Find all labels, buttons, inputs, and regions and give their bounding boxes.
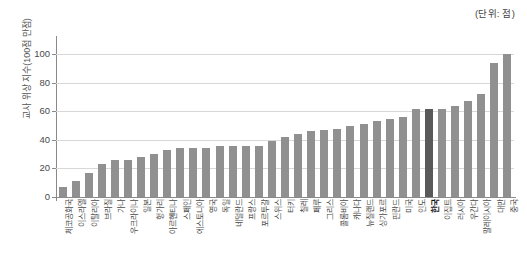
- x-axis-label: 중국: [511, 199, 519, 265]
- teacher-status-index-bar-chart: (단위: 점) 교사 위상 지수(100점 만점) 020406080100 체…: [0, 0, 527, 268]
- bar: [85, 173, 93, 197]
- x-axis-label: 칠레: [301, 199, 309, 265]
- bar: [255, 146, 263, 197]
- x-axis-label: 캐나다: [354, 199, 362, 265]
- y-tick-mark: [52, 197, 56, 198]
- x-axis-label: 이집트: [445, 199, 453, 265]
- x-axis-label: 독일: [223, 199, 231, 265]
- x-axis-label: 체코공화국: [66, 199, 74, 265]
- bar: [307, 131, 315, 197]
- y-tick-label: 100: [26, 49, 50, 59]
- bar: [98, 164, 106, 197]
- bar: [412, 109, 420, 197]
- y-tick-label: 60: [26, 106, 50, 116]
- x-axis-label: 페루: [314, 199, 322, 265]
- x-axis-label: 네덜란드: [236, 199, 244, 265]
- bar: [333, 129, 341, 198]
- bar: [176, 148, 184, 197]
- y-tick-label: 80: [26, 78, 50, 88]
- x-axis-label: 아르헨티나: [170, 199, 178, 265]
- x-axis-label: 이스라엘: [79, 199, 87, 265]
- x-axis-label: 포르투갈: [262, 199, 270, 265]
- bar: [229, 146, 237, 197]
- bar: [216, 146, 224, 197]
- bar: [189, 148, 197, 197]
- x-axis-category-labels: 체코공화국이스라엘이탈리아브라질가나우크라이나일본헝가리아르헨티나스페인에스토니…: [56, 199, 516, 268]
- x-axis-label: 핀란드: [393, 199, 401, 265]
- x-axis-label: 가나: [118, 199, 126, 265]
- bar: [464, 101, 472, 197]
- x-axis-label: 스페인: [184, 199, 192, 265]
- bar: [294, 134, 302, 197]
- x-axis-label: 이탈리아: [92, 199, 100, 265]
- bar: [124, 160, 132, 197]
- bar-series: [56, 40, 516, 197]
- bar: [242, 146, 250, 197]
- x-axis-label: 영국: [210, 199, 218, 265]
- x-axis-label: 말레이시아: [484, 199, 492, 265]
- bar: [111, 160, 119, 197]
- x-axis-label: 뉴질랜드: [367, 199, 375, 265]
- bar: [438, 109, 446, 197]
- x-axis-label: 미국: [406, 199, 414, 265]
- bar: [346, 126, 354, 197]
- x-axis-label: 우간다: [471, 199, 479, 265]
- y-axis-title: 교사 위상 지수(100점 만점): [20, 0, 33, 139]
- x-axis-label: 에스토니아: [197, 199, 205, 265]
- unit-note: (단위: 점): [475, 6, 515, 20]
- bar-highlight-korea: [425, 109, 433, 197]
- bar: [281, 137, 289, 197]
- bar: [150, 154, 158, 197]
- x-axis-label: 헝가리: [157, 199, 165, 265]
- bar: [373, 121, 381, 197]
- y-tick-label: 0: [26, 192, 50, 202]
- bar: [490, 63, 498, 197]
- bar: [163, 150, 171, 197]
- x-axis-label: 그리스: [327, 199, 335, 265]
- bar: [451, 106, 459, 197]
- x-axis-label: 프랑스: [249, 199, 257, 265]
- x-axis-label: 콜롬비아: [341, 199, 349, 265]
- x-axis-label: 한국: [432, 199, 440, 265]
- bar: [202, 148, 210, 197]
- y-tick-label: 20: [26, 163, 50, 173]
- x-axis-label: 싱가포르: [380, 199, 388, 265]
- x-axis-label: 우크라이나: [131, 199, 139, 265]
- bar: [268, 141, 276, 197]
- x-axis-line: [56, 197, 516, 198]
- x-axis-label: 스위스: [275, 199, 283, 265]
- bar: [386, 119, 394, 198]
- bar: [137, 157, 145, 197]
- bar: [360, 124, 368, 197]
- bar: [320, 130, 328, 197]
- x-axis-label: 러시아: [458, 199, 466, 265]
- bar: [477, 94, 485, 197]
- bar: [59, 187, 67, 197]
- x-axis-label: 브라질: [105, 199, 113, 265]
- x-axis-label: 터키: [288, 199, 296, 265]
- bar: [399, 117, 407, 197]
- x-axis-label: 대만: [498, 199, 506, 265]
- x-axis-label: 인도: [419, 199, 427, 265]
- bar: [503, 54, 511, 197]
- bar: [72, 181, 80, 197]
- x-axis-label: 일본: [144, 199, 152, 265]
- y-tick-label: 40: [26, 135, 50, 145]
